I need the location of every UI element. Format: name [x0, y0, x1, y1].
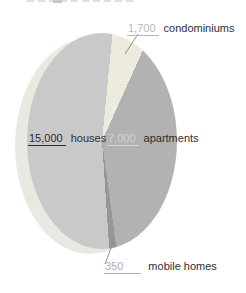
- houses-value: 15,000: [28, 132, 66, 146]
- condominiums-value: 1,700: [127, 22, 159, 36]
- mobile-homes-value: 350: [104, 260, 141, 274]
- condominiums-text: condominiums: [164, 22, 235, 34]
- apartments-label: 7,000apartments: [107, 132, 199, 145]
- pie-chart-figure: 1,700condominiums 15,000houses 7,000apar…: [0, 0, 246, 293]
- houses-text: houses: [71, 132, 106, 144]
- cropped-title-dark-mark: [53, 0, 62, 3]
- condominiums-label: 1,700condominiums: [127, 22, 234, 35]
- cropped-title-remnant: [27, 0, 135, 2]
- apartments-value: 7,000: [107, 132, 139, 146]
- houses-label: 15,000houses: [28, 132, 106, 145]
- mobile-homes-label: 350mobile homes: [104, 260, 217, 273]
- mobile-homes-text: mobile homes: [148, 260, 216, 272]
- apartments-text: apartments: [144, 132, 199, 144]
